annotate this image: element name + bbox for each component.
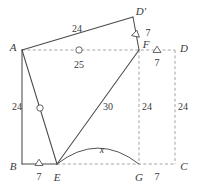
tick-FD [153,46,161,52]
point-label-B: B [10,161,17,172]
length-B-E: 7 [37,172,42,182]
point-label-F: F [143,39,150,50]
point-label-E: E [54,172,61,183]
point-label-D: D [180,43,188,54]
point-label-Dp: D' [136,6,146,17]
length-Dprime-F: 7 [146,28,151,38]
length-G-C: 7 [155,172,160,182]
circle-mark-AE [37,105,43,111]
tick-BE [35,159,43,165]
length-A-D: 25 [74,60,84,70]
edge-E-F [57,50,139,164]
point-label-G: G [135,172,143,183]
figure-canvas [0,0,197,191]
length-D-C: 24 [178,102,188,112]
point-label-A: A [10,42,17,53]
arc-x-EG [57,148,139,164]
geometry-figure: ABCDEFGD'2425772430242477x [0,0,197,191]
length-E-F: 30 [103,102,113,112]
length-F-G: 24 [142,102,152,112]
circle-mark-AD [76,47,82,53]
length-A-Dprime: 24 [72,24,82,34]
point-label-C: C [180,161,187,172]
length-F-D: 7 [155,58,160,68]
tick-Dprime-F [132,29,141,37]
length-A-B: 24 [12,102,22,112]
length-E-G: x [100,145,104,155]
